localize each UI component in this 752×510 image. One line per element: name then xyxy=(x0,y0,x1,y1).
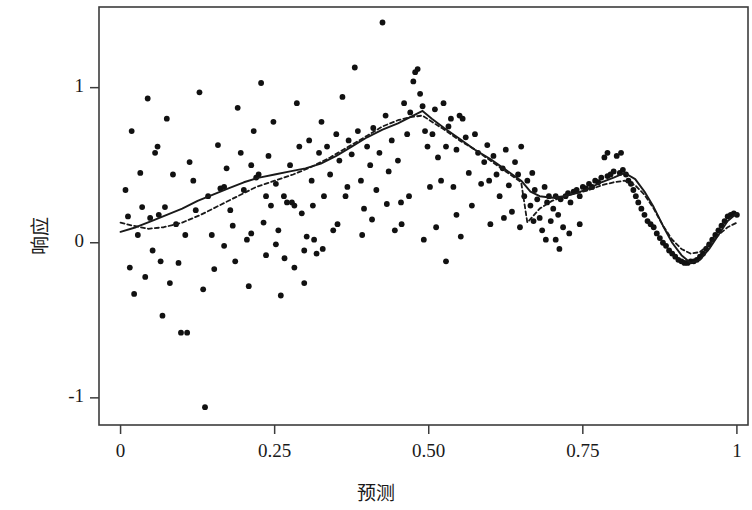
y-tick-label: 1 xyxy=(24,75,84,97)
x-tick-label: 1 xyxy=(702,440,752,462)
x-tick-label: 0.50 xyxy=(394,440,464,462)
x-axis-label: 预测 xyxy=(0,478,752,505)
plot-canvas xyxy=(0,0,752,510)
x-tick-label: 0 xyxy=(86,440,156,462)
x-tick-label: 0.75 xyxy=(548,440,618,462)
axis-ticks xyxy=(90,88,737,434)
scatter-plot-figure: 预测 响应 00.250.500.751 -101 xyxy=(0,0,752,510)
y-tick-label: 0 xyxy=(24,230,84,252)
y-tick-label: -1 xyxy=(24,385,84,407)
x-tick-label: 0.25 xyxy=(240,440,310,462)
scatter-points xyxy=(123,20,740,410)
